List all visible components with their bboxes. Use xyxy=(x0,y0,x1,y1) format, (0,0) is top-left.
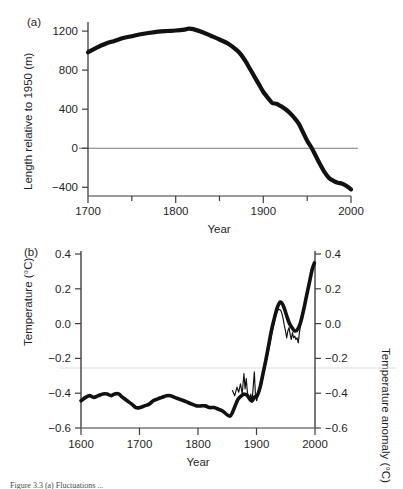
svg-text:0.4: 0.4 xyxy=(55,248,72,260)
panel-b-ylabel: Temperature (°C) xyxy=(22,258,34,346)
svg-text:−0.2: −0.2 xyxy=(48,352,71,364)
svg-text:1800: 1800 xyxy=(185,438,211,450)
panel-a-glacier-length-curve xyxy=(88,29,351,190)
svg-text:0: 0 xyxy=(72,142,78,154)
figure-container: (a) Length relative to 1950 (m) 1200 800… xyxy=(0,0,403,489)
panel-a-x-ticklabels: 1700 1800 1900 2000 xyxy=(75,205,364,217)
panel-b: (b) Temperature (°C) Temperature anomaly… xyxy=(22,246,396,483)
panel-a: (a) Length relative to 1950 (m) 1200 800… xyxy=(22,16,364,235)
panel-b-x-ticklabels: 1600 1700 1800 1900 2000 xyxy=(68,438,328,450)
svg-text:0.2: 0.2 xyxy=(55,283,71,295)
svg-text:1700: 1700 xyxy=(75,205,101,217)
panel-b-xlabel: Year xyxy=(186,456,209,468)
svg-text:800: 800 xyxy=(59,64,78,76)
svg-text:−0.6: −0.6 xyxy=(48,422,71,434)
svg-text:−0.6: −0.6 xyxy=(325,422,348,434)
svg-text:1900: 1900 xyxy=(251,205,277,217)
svg-text:2000: 2000 xyxy=(338,205,364,217)
svg-text:400: 400 xyxy=(59,103,78,115)
svg-text:−0.4: −0.4 xyxy=(48,387,71,399)
panel-b-instrumental-curve xyxy=(232,263,314,403)
panel-b-y-ticks-right xyxy=(315,254,321,428)
svg-text:0.2: 0.2 xyxy=(325,283,341,295)
panel-b-tag: (b) xyxy=(24,246,38,258)
panel-a-x-ticks xyxy=(88,196,351,203)
svg-text:1700: 1700 xyxy=(127,438,153,450)
panel-b-reconstruction-curve xyxy=(81,263,314,416)
svg-text:1900: 1900 xyxy=(244,438,270,450)
panel-a-xlabel: Year xyxy=(207,223,230,235)
panel-b-x-ticks xyxy=(81,428,315,435)
svg-text:0.4: 0.4 xyxy=(325,248,342,260)
figure-caption: Figure 3.3 (a) Fluctuations ... xyxy=(10,481,400,489)
svg-text:−400: −400 xyxy=(52,181,78,193)
panel-a-ylabel: Length relative to 1950 (m) xyxy=(22,52,34,190)
svg-text:−0.2: −0.2 xyxy=(325,352,348,364)
panel-b-y-ticklabels-right: 0.4 0.2 0.0 −0.2 −0.4 −0.6 xyxy=(325,248,348,434)
panel-a-tag: (a) xyxy=(27,16,41,28)
panel-a-y-ticklabels: 1200 800 400 0 −400 xyxy=(52,25,78,193)
svg-text:2000: 2000 xyxy=(302,438,328,450)
svg-text:1200: 1200 xyxy=(52,25,78,37)
panel-a-y-ticks xyxy=(82,31,88,187)
svg-text:0.0: 0.0 xyxy=(55,318,71,330)
svg-text:1600: 1600 xyxy=(68,438,94,450)
panel-b-y-ticklabels-left: 0.4 0.2 0.0 −0.2 −0.4 −0.6 xyxy=(48,248,71,434)
svg-text:−0.4: −0.4 xyxy=(325,387,348,399)
svg-text:1800: 1800 xyxy=(163,205,189,217)
figure-svg: (a) Length relative to 1950 (m) 1200 800… xyxy=(0,0,403,489)
svg-text:0.0: 0.0 xyxy=(325,318,341,330)
